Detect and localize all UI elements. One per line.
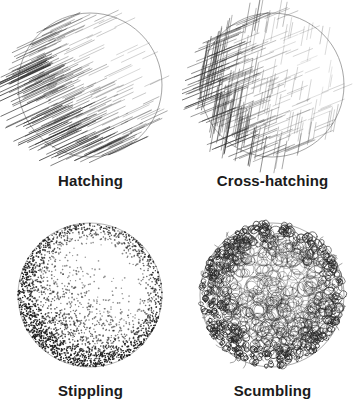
label-stippling: Stippling [0, 382, 181, 400]
panel-stippling: Stippling [0, 210, 181, 420]
label-cross-hatching: Cross-hatching [182, 172, 363, 190]
panel-hatching: Hatching [0, 0, 181, 210]
sphere-stippling [0, 210, 181, 388]
panel-cross-hatching: Cross-hatching [182, 0, 363, 210]
shading-techniques-figure: Hatching Cross-hatching Stippling Scumbl… [0, 0, 363, 420]
sphere-hatching [0, 0, 181, 178]
label-scumbling: Scumbling [182, 382, 363, 400]
sphere-cross-hatching [182, 0, 363, 178]
label-hatching: Hatching [0, 172, 181, 190]
sphere-scumbling [182, 210, 363, 388]
panel-scumbling: Scumbling [182, 210, 363, 420]
